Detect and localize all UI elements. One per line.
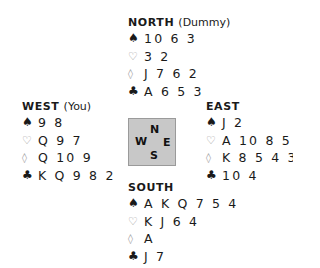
cards-hearts: Q 9 7 xyxy=(38,132,83,150)
diamond-icon: ◊ xyxy=(128,65,144,83)
compass-box: N W E S xyxy=(128,118,176,166)
suit-line-spades: ♠ 10 6 3 xyxy=(128,30,230,48)
heart-icon: ♡ xyxy=(128,213,144,231)
suit-line-spades: ♠ J 2 xyxy=(206,114,293,132)
cards-diamonds: K 8 5 4 3 xyxy=(222,149,293,167)
diamond-icon: ◊ xyxy=(128,230,144,248)
suit-line-hearts: ♡ Q 9 7 xyxy=(22,132,116,150)
hand-label-north: NORTH (Dummy) xyxy=(128,16,230,30)
compass-south: S xyxy=(150,150,158,162)
suit-line-hearts: ♡ A 10 8 5 xyxy=(206,132,293,150)
spade-icon: ♠ xyxy=(206,114,222,132)
heart-icon: ♡ xyxy=(206,132,222,150)
club-icon: ♣ xyxy=(128,83,144,101)
suit-line-hearts: ♡ K J 6 4 xyxy=(128,213,239,231)
role-north: (Dummy) xyxy=(178,16,230,29)
cards-hearts: 3 2 xyxy=(144,48,170,66)
cards-clubs: J 7 xyxy=(144,248,166,266)
heart-icon: ♡ xyxy=(22,132,38,150)
suit-line-spades: ♠ A K Q 7 5 4 xyxy=(128,195,239,213)
club-icon: ♣ xyxy=(22,167,38,185)
suit-line-clubs: ♣ A 6 5 3 xyxy=(128,83,230,101)
compass-east: E xyxy=(163,137,171,149)
compass-north: N xyxy=(150,124,159,136)
diamond-icon: ◊ xyxy=(22,149,38,167)
cards-hearts: A 10 8 5 xyxy=(222,132,292,150)
cards-diamonds: Q 10 9 xyxy=(38,149,93,167)
cards-spades: J 2 xyxy=(222,114,244,132)
club-icon: ♣ xyxy=(128,248,144,266)
cards-spades: A K Q 7 5 4 xyxy=(144,195,239,213)
hand-south: SOUTH ♠ A K Q 7 5 4 ♡ K J 6 4 ◊ A ♣ J 7 xyxy=(128,181,239,265)
cards-diamonds: J 7 6 2 xyxy=(144,65,199,83)
cards-spades: 9 8 xyxy=(38,114,64,132)
suit-line-diamonds: ◊ Q 10 9 xyxy=(22,149,116,167)
suit-line-diamonds: ◊ J 7 6 2 xyxy=(128,65,230,83)
spade-icon: ♠ xyxy=(128,30,144,48)
hand-label-west: WEST (You) xyxy=(22,100,116,114)
suit-line-spades: ♠ 9 8 xyxy=(22,114,116,132)
spade-icon: ♠ xyxy=(128,195,144,213)
cards-diamonds: A xyxy=(144,230,155,248)
cards-clubs: A 6 5 3 xyxy=(144,83,204,101)
hand-east: EAST ♠ J 2 ♡ A 10 8 5 ◊ K 8 5 4 3 ♣ 10 4 xyxy=(206,100,293,184)
cards-clubs: K Q 9 8 2 xyxy=(38,167,116,185)
heart-icon: ♡ xyxy=(128,48,144,66)
hand-label-east: EAST xyxy=(206,100,293,114)
compass-west: W xyxy=(135,136,147,148)
cards-hearts: K J 6 4 xyxy=(144,213,199,231)
direction-north: NORTH xyxy=(128,16,174,29)
suit-line-diamonds: ◊ K 8 5 4 3 xyxy=(206,149,293,167)
hand-north: NORTH (Dummy) ♠ 10 6 3 ♡ 3 2 ◊ J 7 6 2 ♣… xyxy=(128,16,230,100)
hand-label-south: SOUTH xyxy=(128,181,239,195)
direction-west: WEST xyxy=(22,100,59,113)
suit-line-clubs: ♣ J 7 xyxy=(128,248,239,266)
role-west: (You) xyxy=(64,100,92,113)
diamond-icon: ◊ xyxy=(206,149,222,167)
suit-line-hearts: ♡ 3 2 xyxy=(128,48,230,66)
hand-west: WEST (You) ♠ 9 8 ♡ Q 9 7 ◊ Q 10 9 ♣ K Q … xyxy=(22,100,116,184)
suit-line-diamonds: ◊ A xyxy=(128,230,239,248)
spade-icon: ♠ xyxy=(22,114,38,132)
direction-south: SOUTH xyxy=(128,181,174,194)
direction-east: EAST xyxy=(206,100,240,113)
suit-line-clubs: ♣ K Q 9 8 2 xyxy=(22,167,116,185)
cards-spades: 10 6 3 xyxy=(144,30,197,48)
